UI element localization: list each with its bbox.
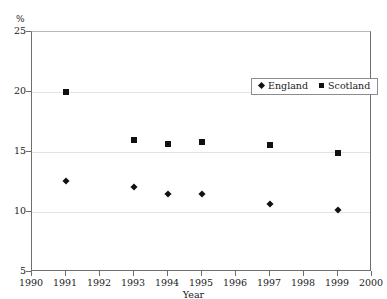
- data-point-england: [266, 200, 273, 207]
- x-axis-label: 1998: [291, 278, 315, 288]
- x-axis-label: 1995: [189, 278, 213, 288]
- x-axis-title: Year: [0, 289, 387, 299]
- y-axis-label: 10: [14, 206, 26, 216]
- x-axis-label: 1994: [155, 278, 179, 288]
- chart-container: % England Scotland 252015105 19901991199…: [0, 0, 387, 299]
- data-point-england: [62, 177, 69, 184]
- x-axis-tick: [235, 271, 236, 276]
- y-axis-tick: [26, 211, 31, 212]
- y-axis-unit-label: %: [16, 14, 25, 24]
- data-point-england: [198, 190, 205, 197]
- y-axis-tick: [26, 31, 31, 32]
- legend-item-england: England: [259, 81, 308, 91]
- x-axis-tick: [99, 271, 100, 276]
- x-axis-tick: [371, 271, 372, 276]
- data-point-scotland: [267, 142, 273, 148]
- y-axis-label: 15: [14, 146, 26, 156]
- x-axis-label: 1990: [19, 278, 43, 288]
- data-point-scotland: [63, 89, 69, 95]
- x-axis-label: 1997: [257, 278, 281, 288]
- data-point-england: [130, 183, 137, 190]
- y-axis-label: 5: [20, 266, 26, 276]
- x-axis-label: 1999: [325, 278, 349, 288]
- y-axis-tick: [26, 151, 31, 152]
- x-axis-label: 1993: [121, 278, 145, 288]
- x-axis-tick: [303, 271, 304, 276]
- x-axis-tick: [133, 271, 134, 276]
- y-axis-label: 25: [14, 26, 26, 36]
- square-marker-icon: [319, 83, 324, 88]
- y-axis-tick: [26, 91, 31, 92]
- data-point-scotland: [199, 139, 205, 145]
- x-axis-label: 1996: [223, 278, 247, 288]
- gridline: [32, 212, 370, 213]
- data-point-england: [164, 190, 171, 197]
- gridline: [32, 152, 370, 153]
- x-axis-label: 1992: [87, 278, 111, 288]
- x-axis-tick: [201, 271, 202, 276]
- data-point-scotland: [165, 141, 171, 147]
- y-axis-label: 20: [14, 86, 26, 96]
- x-axis-tick: [167, 271, 168, 276]
- x-axis-tick: [65, 271, 66, 276]
- x-axis-tick: [269, 271, 270, 276]
- x-axis-tick: [31, 271, 32, 276]
- legend-label-england: England: [268, 81, 308, 91]
- x-axis-tick: [337, 271, 338, 276]
- legend-item-scotland: Scotland: [319, 81, 370, 91]
- data-point-scotland: [335, 150, 341, 156]
- diamond-marker-icon: [258, 82, 265, 89]
- chart-legend: England Scotland: [251, 78, 378, 95]
- legend-label-scotland: Scotland: [328, 81, 370, 91]
- x-axis-label: 2000: [359, 278, 383, 288]
- x-axis-label: 1991: [53, 278, 77, 288]
- data-point-scotland: [131, 137, 137, 143]
- plot-area: England Scotland: [31, 31, 371, 271]
